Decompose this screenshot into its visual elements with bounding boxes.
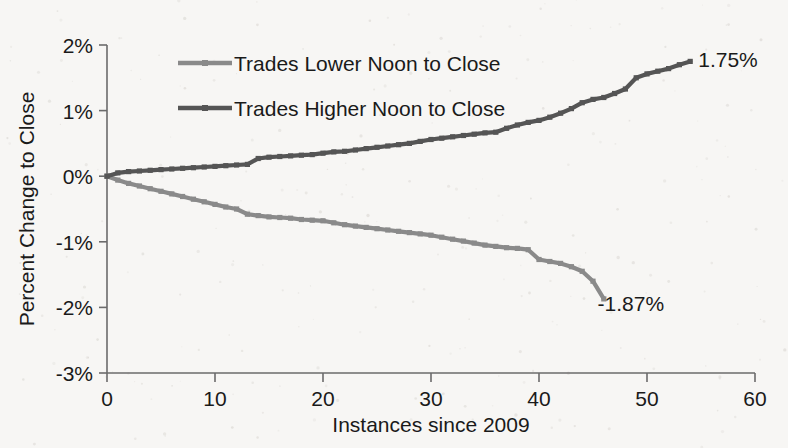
series-marker (126, 181, 131, 186)
paper-speckle (455, 187, 458, 190)
paper-speckle (364, 221, 365, 222)
paper-speckle (231, 426, 234, 429)
paper-speckle (437, 254, 439, 256)
series-marker (407, 141, 412, 146)
x-tick-label: 0 (101, 387, 113, 410)
paper-speckle (345, 162, 347, 164)
series-marker (115, 170, 120, 175)
paper-speckle (578, 264, 581, 267)
series-marker (547, 259, 552, 264)
series-marker (472, 241, 477, 246)
series-marker (461, 239, 466, 244)
series-marker (547, 115, 552, 120)
chart-page: 2%1%0%-1%-2%-3%0102030405060 Trades Lowe… (0, 0, 788, 448)
paper-speckle (256, 436, 258, 438)
paper-speckle (599, 141, 602, 144)
paper-speckle (345, 184, 347, 186)
paper-speckle (86, 356, 89, 359)
paper-speckle (716, 139, 718, 141)
series-marker (288, 153, 293, 158)
series-marker (644, 71, 649, 76)
paper-speckle (10, 46, 12, 48)
series-marker (450, 237, 455, 242)
paper-speckle (697, 120, 698, 121)
paper-speckle (704, 291, 706, 293)
paper-speckle (341, 193, 343, 195)
paper-speckle (197, 250, 200, 253)
series-marker (288, 216, 293, 221)
paper-speckle (251, 381, 254, 384)
paper-speckle (519, 350, 522, 353)
series-marker (137, 168, 142, 173)
paper-speckle (262, 264, 263, 265)
paper-speckle (298, 326, 300, 328)
paper-speckle (256, 1, 257, 2)
paper-speckle (151, 398, 153, 400)
paper-speckle (726, 104, 729, 107)
paper-speckle (127, 271, 129, 273)
paper-speckle (431, 122, 432, 123)
paper-speckle (33, 443, 36, 446)
series-marker (364, 146, 369, 151)
series-marker (536, 257, 541, 262)
paper-speckle (614, 143, 616, 145)
paper-speckle (705, 365, 706, 366)
paper-speckle (373, 88, 375, 90)
paper-speckle (213, 79, 216, 82)
paper-speckle (528, 292, 531, 295)
series-marker (277, 215, 282, 220)
paper-speckle (592, 132, 595, 135)
paper-speckle (37, 71, 40, 74)
paper-speckle (310, 285, 311, 286)
paper-speckle (585, 252, 586, 253)
paper-speckle (282, 151, 283, 152)
paper-speckle (359, 331, 361, 333)
series-marker (385, 227, 390, 232)
paper-speckle (6, 137, 8, 139)
paper-speckle (245, 170, 247, 172)
series-marker (115, 178, 120, 183)
paper-speckle (428, 78, 430, 80)
paper-speckle (558, 419, 561, 422)
paper-speckle (72, 81, 73, 82)
legend-label-0: Trades Lower Noon to Close (234, 52, 501, 75)
paper-speckle (760, 319, 761, 320)
paper-speckle (567, 163, 570, 166)
annotation-0: 1.75% (698, 48, 758, 71)
annotation-1: -1.87% (598, 292, 665, 315)
paper-speckle (608, 427, 611, 430)
series-marker (169, 191, 174, 196)
series-marker (407, 230, 412, 235)
paper-speckle (755, 169, 757, 171)
paper-speckle (727, 4, 730, 7)
paper-speckle (240, 200, 241, 201)
y-tick-label: 0% (63, 165, 93, 188)
series-marker (677, 62, 682, 67)
paper-speckle (644, 358, 646, 360)
paper-speckle (97, 169, 99, 171)
paper-speckle (232, 393, 234, 395)
paper-speckle (66, 256, 68, 258)
series-marker (666, 66, 671, 71)
series-marker (299, 153, 304, 158)
paper-speckle (118, 37, 120, 39)
x-tick-label: 30 (419, 387, 442, 410)
line-chart: 2%1%0%-1%-2%-3%0102030405060 Trades Lowe… (0, 0, 788, 448)
paper-speckle (141, 383, 143, 385)
x-axis-title: Instances since 2009 (332, 413, 529, 436)
paper-speckle (423, 288, 425, 290)
paper-speckle (728, 195, 731, 198)
paper-speckle (498, 375, 499, 376)
series-marker (277, 154, 282, 159)
series-marker (234, 206, 239, 211)
paper-speckle (228, 334, 230, 336)
paper-speckle (468, 318, 470, 320)
series-marker (266, 155, 271, 160)
series-marker (320, 218, 325, 223)
series-marker (558, 261, 563, 266)
series-marker (590, 279, 595, 284)
paper-speckle (279, 385, 281, 387)
paper-speckle (573, 60, 574, 61)
y-axis-title: Percent Change to Close (15, 92, 38, 327)
series-marker (504, 245, 509, 250)
